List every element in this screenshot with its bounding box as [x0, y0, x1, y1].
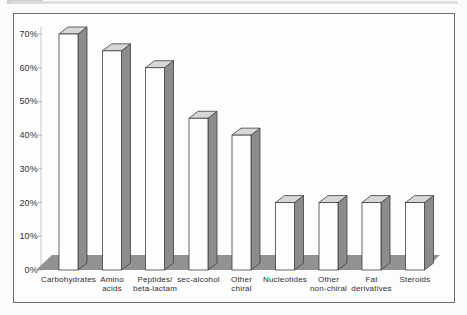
- category-label: Amino: [100, 275, 124, 284]
- category-label: beta-lactam: [133, 284, 177, 293]
- category-label: chiral: [231, 284, 251, 293]
- category-label: non-chiral: [310, 284, 347, 293]
- category-label: Nucleotides: [263, 275, 307, 284]
- y-tick-label: 50%: [19, 96, 38, 106]
- bar-fat-derivatives: [362, 196, 390, 270]
- bar-side-face: [78, 27, 87, 270]
- bar-front-face: [59, 34, 78, 270]
- category-label: Other: [318, 275, 339, 284]
- category-label: Steroids: [400, 275, 431, 284]
- bar-sec-alcohol: [189, 111, 217, 270]
- category-label: sec-alcohol: [177, 275, 220, 284]
- category-label: Peptides/: [137, 275, 173, 284]
- y-tick-label: 0%: [25, 265, 38, 275]
- y-tick-label: 30%: [19, 164, 38, 174]
- bar-side-face: [295, 196, 304, 270]
- bar-front-face: [232, 135, 251, 270]
- y-tick-label: 20%: [19, 198, 38, 208]
- y-tick-label: 70%: [19, 29, 38, 39]
- bar-front-face: [146, 68, 165, 270]
- chart-svg: 0%10%20%30%40%50%60%70%CarbohydratesAmin…: [0, 0, 467, 315]
- bar-front-face: [103, 51, 122, 270]
- category-label: Other: [231, 275, 252, 284]
- bar-side-face: [122, 44, 131, 270]
- bar-front-face: [189, 118, 208, 270]
- bar-steroids: [406, 196, 434, 270]
- bar-other-non-chiral: [319, 196, 347, 270]
- bar-carbohydrates: [59, 27, 87, 270]
- bar-side-face: [381, 196, 390, 270]
- bar-front-face: [362, 203, 381, 270]
- bar-nucleotides: [276, 196, 304, 270]
- bar-side-face: [165, 61, 174, 270]
- category-label: derivatives: [351, 284, 391, 293]
- bar-peptides-beta-lactam: [146, 61, 174, 270]
- bar-side-face: [251, 128, 260, 270]
- y-tick-label: 60%: [19, 63, 38, 73]
- category-label: acids: [102, 284, 122, 293]
- bar-other-chiral: [232, 128, 260, 270]
- category-label: Carbohydrates: [41, 275, 96, 284]
- chart-figure: 0%10%20%30%40%50%60%70%CarbohydratesAmin…: [0, 0, 467, 315]
- bar-front-face: [406, 203, 425, 270]
- bar-front-face: [276, 203, 295, 270]
- bar-amino-acids: [103, 44, 131, 270]
- bar-side-face: [208, 111, 217, 270]
- y-tick-label: 40%: [19, 130, 38, 140]
- bar-side-face: [338, 196, 347, 270]
- scan-artifact: [10, 1, 458, 4]
- bar-front-face: [319, 203, 338, 270]
- category-label: Fat: [365, 275, 378, 284]
- y-tick-label: 10%: [19, 231, 38, 241]
- bar-side-face: [425, 196, 434, 270]
